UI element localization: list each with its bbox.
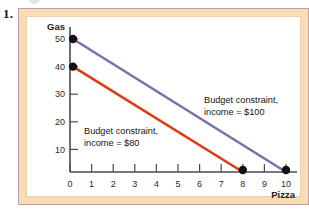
budget-line-income-100	[73, 39, 286, 172]
screenshot-canvas: 1.	[0, 0, 309, 211]
y-tick-label-20: 20	[55, 117, 65, 127]
x-axis-ticks	[70, 164, 286, 172]
x-tick-label-5: 5	[175, 179, 180, 189]
marker-income80-x-intercept	[239, 166, 247, 174]
x-tick-label-4: 4	[154, 179, 159, 189]
figure-frame: 10 20 30 40 50 0 1 2 3 4 5 6 7 8 9 10	[18, 8, 309, 205]
x-tick-label-0: 0	[67, 179, 72, 189]
annotation-income-80: Budget constraint, income = $80	[84, 126, 158, 148]
x-tick-label-8: 8	[240, 179, 245, 189]
x-tick-label-2: 2	[111, 179, 116, 189]
x-tick-label-6: 6	[197, 179, 202, 189]
y-tick-label-40: 40	[55, 62, 65, 72]
marker-income100-y-intercept	[69, 35, 77, 43]
x-tick-label-9: 9	[262, 179, 267, 189]
budget-constraint-chart: 10 20 30 40 50 0 1 2 3 4 5 6 7 8 9 10	[27, 17, 300, 196]
x-tick-label-1: 1	[89, 179, 94, 189]
decorative-dot-icon	[29, 0, 40, 4]
y-axis-ticks	[70, 39, 78, 149]
figure-frame-inner: 10 20 30 40 50 0 1 2 3 4 5 6 7 8 9 10	[26, 16, 301, 197]
y-axis-title: Gas	[47, 21, 65, 32]
chart-svg: 10 20 30 40 50 0 1 2 3 4 5 6 7 8 9 10	[27, 17, 304, 200]
y-tick-label-30: 30	[55, 89, 65, 99]
marker-income80-y-intercept	[69, 62, 77, 70]
budget-line-income-80	[73, 67, 243, 172]
y-tick-label-10: 10	[55, 145, 65, 155]
question-number: 1.	[3, 6, 13, 22]
x-tick-label-7: 7	[219, 179, 224, 189]
y-tick-label-50: 50	[55, 34, 65, 44]
x-tick-label-10: 10	[281, 179, 291, 189]
x-axis-title: Pizza	[271, 189, 295, 200]
annotation-income-100-line1: Budget constraint,	[204, 95, 278, 105]
x-tick-label-3: 3	[132, 179, 137, 189]
annotation-income-80-line2: income = $80	[84, 138, 139, 148]
annotation-income-80-line1: Budget constraint,	[84, 126, 158, 136]
annotation-income-100-line2: income = $100	[204, 107, 265, 117]
marker-income100-x-intercept	[282, 166, 290, 174]
annotation-income-100: Budget constraint, income = $100	[204, 95, 278, 117]
